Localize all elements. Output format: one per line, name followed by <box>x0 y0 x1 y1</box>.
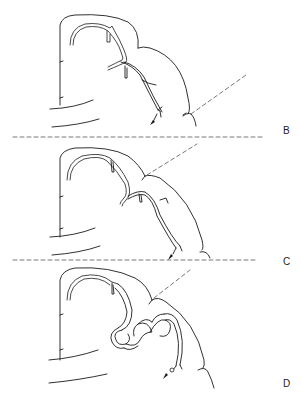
panel-b-drawing <box>50 15 246 127</box>
panel-label-c: C <box>283 256 290 267</box>
panel-c-drawing <box>50 144 210 260</box>
panel-label-d: D <box>283 378 290 389</box>
diagram-figure: B C D <box>0 0 301 399</box>
panel-d-drawing <box>49 268 214 388</box>
diagram-svg <box>0 0 301 399</box>
panel-label-b: B <box>283 125 290 136</box>
